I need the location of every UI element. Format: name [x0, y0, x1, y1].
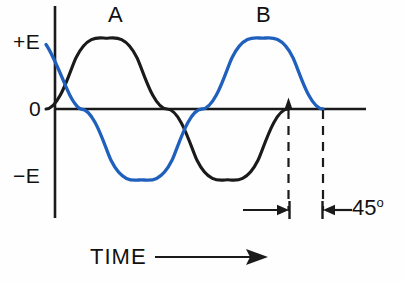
curve-label-b: B	[256, 4, 271, 26]
phase-angle-value: 45	[352, 195, 376, 220]
y-axis-label-plus-e: +E	[13, 31, 40, 52]
phase-angle-label: 45o	[352, 196, 384, 219]
y-axis-label-minus-e: −E	[13, 165, 40, 186]
plot-canvas	[0, 0, 404, 282]
degree-icon: o	[376, 195, 383, 210]
phase-arrow-right-head	[323, 205, 335, 215]
y-axis-label-zero: 0	[29, 98, 41, 119]
curve-a-endpoint-arrowhead	[285, 98, 293, 110]
x-axis-caption-time: TIME	[90, 246, 147, 268]
waveform-phase-diagram: +E 0 −E A B 45o TIME	[0, 0, 404, 282]
phase-arrow-left-head	[277, 205, 289, 215]
curve-label-a: A	[108, 4, 123, 26]
